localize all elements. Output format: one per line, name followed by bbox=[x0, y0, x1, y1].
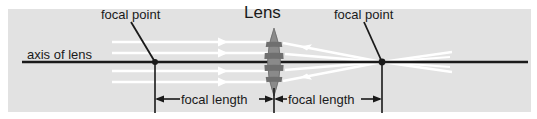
incoming-ray bbox=[112, 49, 268, 58]
label-lens-title: Lens bbox=[244, 4, 281, 21]
lens-shape bbox=[264, 28, 283, 96]
label-focal-length-left: focal length bbox=[181, 93, 248, 106]
label-focal-point-left: focal point bbox=[101, 8, 160, 21]
incoming-ray bbox=[112, 78, 266, 87]
label-focal-length-right: focal length bbox=[288, 93, 355, 106]
figure-canvas: focal point Lens focal point axis of len… bbox=[0, 0, 537, 119]
incoming-ray bbox=[112, 38, 266, 47]
incoming-ray bbox=[112, 67, 268, 76]
leader-line-right bbox=[364, 22, 382, 62]
label-focal-point-right: focal point bbox=[334, 8, 393, 21]
label-axis-of-lens: axis of lens bbox=[27, 48, 92, 61]
